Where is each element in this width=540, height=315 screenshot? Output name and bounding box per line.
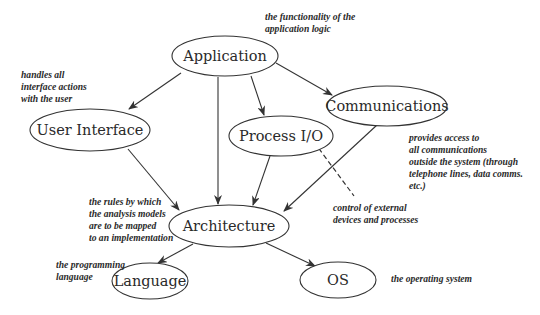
- annotation-line: all communications: [409, 144, 487, 155]
- edge-application-user-interface: [129, 73, 181, 109]
- dashed-connector-process-io-note: [314, 142, 354, 196]
- node-communications[interactable]: Communications: [325, 86, 448, 126]
- node-application[interactable]: Application: [172, 36, 278, 76]
- node-label-communications: Communications: [325, 98, 448, 114]
- annotation-line: the programming: [56, 259, 125, 270]
- annotation-line: language: [56, 271, 94, 282]
- annotation-line: etc.): [409, 180, 426, 192]
- node-label-os: OS: [327, 272, 349, 288]
- node-label-language: Language: [114, 273, 187, 289]
- annotation-line: handles all: [21, 69, 65, 80]
- node-label-process-io: Process I/O: [239, 128, 323, 144]
- edge-application-communications: [276, 63, 332, 95]
- annotation-line: provides access to: [408, 132, 480, 143]
- annotation-architecture: the rules by which the analysis models a…: [89, 196, 173, 243]
- annotation-line: interface actions: [21, 81, 87, 92]
- edge-application-process-io: [251, 76, 264, 115]
- architecture-diagram: Application User Interface Process I/O C…: [0, 0, 540, 315]
- node-label-architecture: Architecture: [182, 218, 276, 234]
- annotation-line: to an implementation: [89, 232, 173, 243]
- annotation-application: the functionality of the application log…: [265, 11, 356, 34]
- annotation-line: are to be mapped: [89, 220, 157, 231]
- annotation-os: the operating system: [391, 273, 472, 284]
- annotation-process-io: control of external devices and processe…: [333, 202, 419, 225]
- edge-architecture-os: [266, 243, 315, 266]
- annotation-line: devices and processes: [333, 214, 419, 225]
- annotation-line: the functionality of the: [265, 11, 356, 22]
- annotation-line: telephone lines, data comms.: [409, 168, 523, 179]
- node-label-application: Application: [182, 48, 267, 64]
- annotation-line: the rules by which: [89, 196, 161, 207]
- annotation-line: with the user: [21, 93, 72, 104]
- node-user-interface[interactable]: User Interface: [30, 109, 150, 151]
- annotation-communications: provides access to all communications ou…: [408, 132, 523, 192]
- node-process-io[interactable]: Process I/O: [229, 116, 333, 156]
- node-label-user-interface: User Interface: [37, 122, 144, 138]
- annotation-line: the operating system: [391, 273, 472, 284]
- node-architecture[interactable]: Architecture: [169, 205, 289, 247]
- annotation-line: control of external: [333, 202, 407, 213]
- node-os[interactable]: OS: [300, 262, 376, 298]
- edge-architecture-language: [158, 244, 193, 263]
- annotation-line: outside the system (through: [409, 156, 518, 168]
- annotation-line: the analysis models: [89, 208, 166, 219]
- annotation-user-interface: handles all interface actions with the u…: [21, 69, 87, 104]
- annotation-line: application logic: [265, 23, 332, 34]
- edge-process-io-architecture: [253, 156, 270, 205]
